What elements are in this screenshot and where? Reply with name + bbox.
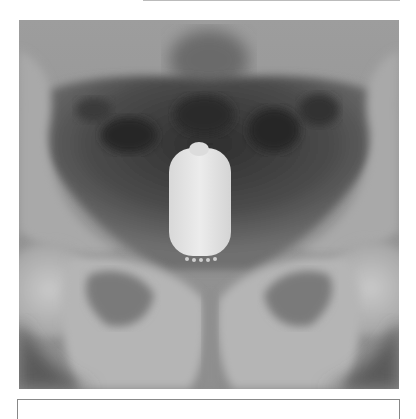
caption-box (17, 399, 400, 419)
xray-image (19, 20, 399, 389)
top-rule (143, 0, 400, 1)
